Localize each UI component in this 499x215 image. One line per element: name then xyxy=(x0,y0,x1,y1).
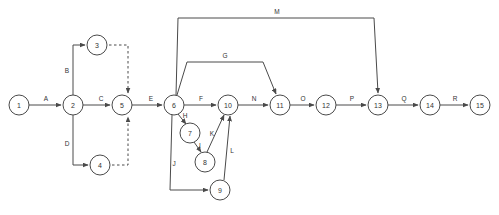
edge-label-a: A xyxy=(44,95,49,102)
node-label-6: 6 xyxy=(172,102,176,109)
edge-label-m: M xyxy=(274,8,279,15)
node-label-4: 4 xyxy=(98,162,102,169)
edge-label-q: Q xyxy=(401,95,406,103)
node-14[interactable]: 14 xyxy=(420,95,440,115)
node-label-7: 7 xyxy=(188,130,192,137)
node-label-12: 12 xyxy=(322,102,330,109)
edge-label-h: H xyxy=(183,112,188,119)
node-label-11: 11 xyxy=(276,102,283,109)
node-8[interactable]: 8 xyxy=(195,152,215,172)
node-label-5: 5 xyxy=(120,102,124,109)
edge-l xyxy=(224,116,230,180)
node-3[interactable]: 3 xyxy=(87,35,107,55)
edge-label-i: I xyxy=(199,142,201,149)
node-4[interactable]: 4 xyxy=(90,155,110,175)
edge-label-e: E xyxy=(149,95,154,102)
node-12[interactable]: 12 xyxy=(316,95,336,115)
edge-label-b: B xyxy=(65,67,69,74)
edge-label-g: G xyxy=(222,52,227,59)
edge-label-d: D xyxy=(65,140,70,147)
edge-labels-layer: ABCDEFGHIJKLNMOPQR xyxy=(44,8,458,167)
node-label-10: 10 xyxy=(224,102,232,109)
node-7[interactable]: 7 xyxy=(180,123,200,143)
network-diagram-canvas: ABCDEFGHIJKLNMOPQR 123456789101112131415 xyxy=(0,0,499,215)
node-label-1: 1 xyxy=(17,102,21,109)
edge-label-n: N xyxy=(252,95,257,102)
edge-b xyxy=(73,45,85,95)
node-label-8: 8 xyxy=(203,159,207,166)
edge-4-5 xyxy=(112,117,128,165)
edge-label-o: O xyxy=(300,95,305,102)
edge-label-f: F xyxy=(199,95,203,102)
edge-d xyxy=(73,115,88,165)
node-15[interactable]: 15 xyxy=(470,95,490,115)
node-2[interactable]: 2 xyxy=(63,95,83,115)
node-label-15: 15 xyxy=(476,102,484,109)
nodes-layer: 123456789101112131415 xyxy=(9,35,490,200)
node-5[interactable]: 5 xyxy=(112,95,132,115)
edge-label-l: L xyxy=(230,147,234,154)
network-diagram-svg: ABCDEFGHIJKLNMOPQR 123456789101112131415 xyxy=(0,0,499,215)
node-11[interactable]: 11 xyxy=(270,95,290,115)
edge-g xyxy=(177,62,276,95)
edge-label-k: K xyxy=(210,130,215,137)
edge-label-r: R xyxy=(453,95,458,102)
node-13[interactable]: 13 xyxy=(368,95,388,115)
node-label-3: 3 xyxy=(95,42,99,49)
node-label-13: 13 xyxy=(374,102,382,109)
node-9[interactable]: 9 xyxy=(210,180,230,200)
node-6[interactable]: 6 xyxy=(164,95,184,115)
node-label-2: 2 xyxy=(71,102,75,109)
node-10[interactable]: 10 xyxy=(218,95,238,115)
edge-m xyxy=(176,18,378,95)
edge-3-5 xyxy=(109,45,128,93)
edge-label-j: J xyxy=(172,160,175,167)
edge-label-c: C xyxy=(99,95,104,102)
edge-label-p: P xyxy=(350,95,354,102)
node-label-9: 9 xyxy=(218,187,222,194)
node-label-14: 14 xyxy=(426,102,434,109)
node-1[interactable]: 1 xyxy=(9,95,29,115)
